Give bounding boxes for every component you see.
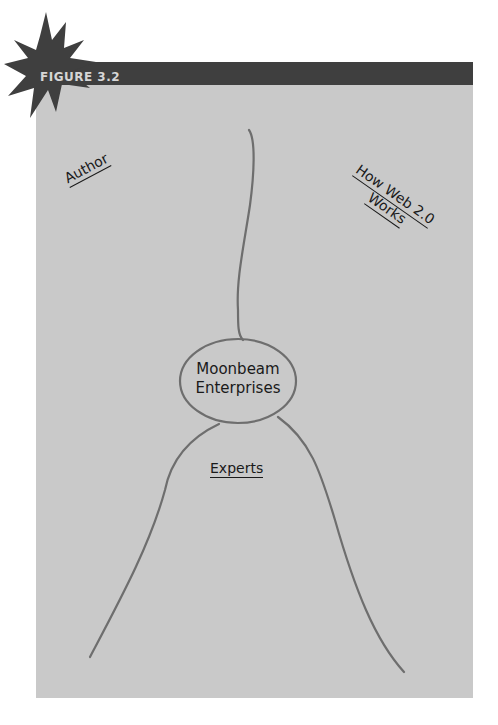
- center-node: Moonbeam Enterprises: [188, 360, 288, 398]
- center-node-line1: Moonbeam: [188, 360, 288, 379]
- left-branch-line: [90, 424, 219, 657]
- experts-label: Experts: [210, 460, 263, 478]
- top-branch-line: [238, 130, 254, 340]
- right-branch-line: [278, 417, 404, 672]
- center-node-line2: Enterprises: [188, 379, 288, 398]
